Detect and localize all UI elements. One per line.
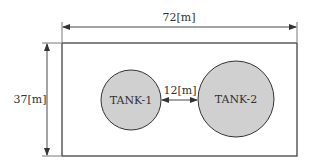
height-dimension: 37[m] — [13, 43, 61, 156]
tank-2: TANK-2 — [198, 61, 274, 137]
width-dimension: 72[m] — [62, 11, 297, 42]
spacing-dimension: 12[m] — [162, 84, 197, 100]
tank-1-label: TANK-1 — [110, 94, 152, 107]
width-label: 72[m] — [162, 11, 195, 24]
tank-1: TANK-1 — [101, 70, 161, 130]
height-label: 37[m] — [13, 93, 46, 106]
tank-2-label: TANK-2 — [215, 93, 257, 106]
spacing-label: 12[m] — [163, 84, 196, 97]
tank-layout-diagram: 72[m] 37[m] TANK-1 TANK-2 12[m] — [0, 0, 312, 164]
